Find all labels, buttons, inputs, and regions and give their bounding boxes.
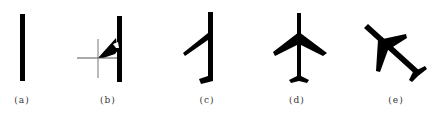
panel-d-airplane-icon — [273, 13, 327, 83]
panel-a-bar — [20, 14, 25, 81]
panel-label-c: (c) — [199, 95, 214, 105]
panel-label-a: (a) — [14, 95, 29, 105]
panel-b-partial-plane — [77, 16, 122, 82]
panel-e-rotated-airplane-icon — [364, 24, 427, 82]
panel-label-b: (b) — [100, 95, 116, 105]
panel-label-e: (e) — [388, 95, 403, 105]
figure-canvas — [0, 0, 437, 121]
panel-label-d: (d) — [289, 95, 305, 105]
panel-c-partial-plane — [183, 12, 213, 84]
